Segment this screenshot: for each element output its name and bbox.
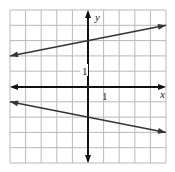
x-axis-label: x [159, 88, 165, 100]
x-tick-label: 1 [102, 90, 108, 102]
arrowhead-icon [158, 24, 166, 30]
arrowhead-icon [158, 128, 166, 134]
arrowhead-icon [10, 51, 18, 57]
y-axis-label: y [94, 11, 100, 23]
x-axis-left-arrow-icon [10, 84, 18, 90]
coordinate-plane: 1 1 y x [0, 0, 175, 172]
y-axis-up-arrow-icon [85, 10, 91, 18]
y-tick-label: 1 [82, 65, 88, 77]
arrowhead-icon [10, 100, 18, 106]
y-axis-down-arrow-icon [85, 155, 91, 163]
